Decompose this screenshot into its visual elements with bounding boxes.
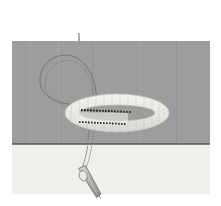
- loop-tab-highlight: [77, 112, 128, 124]
- illustration-figure: Leave a loop of thread: [0, 0, 221, 206]
- illustration-canvas: [0, 0, 221, 206]
- lower-fabric-panel: [12, 144, 210, 194]
